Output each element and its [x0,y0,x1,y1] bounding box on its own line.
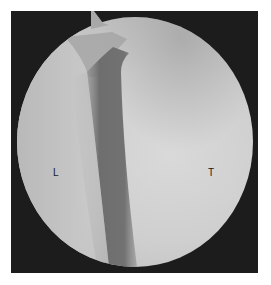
orientation-notch-icon [91,11,111,29]
arthroscopic-view: L T [17,17,253,267]
dark-tendon-band [17,17,253,267]
image-frame: L T [11,11,258,273]
label-t: T [208,167,214,178]
label-l: L [53,167,59,178]
